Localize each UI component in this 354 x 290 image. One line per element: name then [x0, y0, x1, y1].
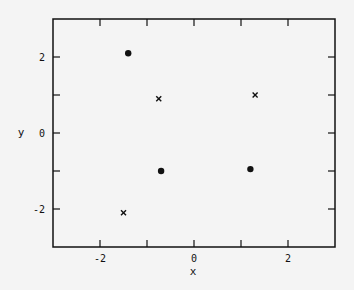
x-tick-label: 2: [285, 253, 291, 264]
y-tick-label: -2: [33, 204, 45, 215]
y-tick-label: 2: [39, 52, 45, 63]
cross-marker: [121, 210, 126, 215]
x-axis-ticks: -202: [94, 19, 291, 264]
dot-marker: [158, 168, 164, 174]
cross-marker: [156, 96, 161, 101]
plot-frame: [53, 19, 335, 247]
y-tick-label: 0: [39, 128, 45, 139]
cross-marker: [253, 93, 258, 98]
y-axis-label: y: [18, 126, 25, 139]
y-axis-ticks: -202: [33, 52, 335, 215]
x-tick-label: -2: [94, 253, 106, 264]
scatter-chart: -202 -202 x y: [0, 0, 354, 290]
x-axis-label: x: [190, 265, 197, 278]
dot-marker: [125, 50, 131, 56]
x-tick-label: 0: [191, 253, 197, 264]
data-points: [121, 50, 258, 215]
dot-marker: [247, 166, 253, 172]
